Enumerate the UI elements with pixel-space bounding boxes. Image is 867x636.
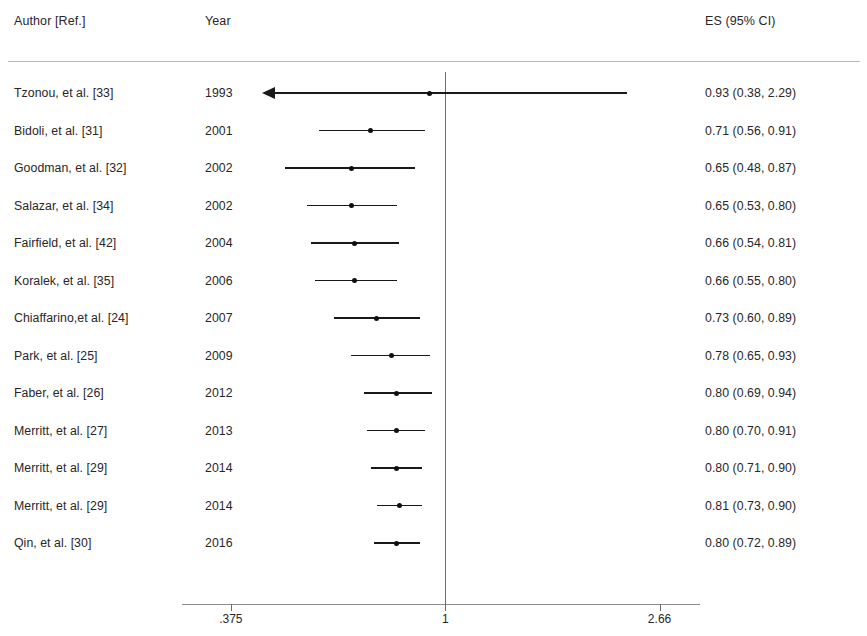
study-effect-size: 0.78 (0.65, 0.93) — [705, 345, 796, 367]
study-effect-size: 0.65 (0.48, 0.87) — [705, 157, 796, 179]
study-effect-size: 0.65 (0.53, 0.80) — [705, 195, 796, 217]
study-author: Tzonou, et al. [33] — [14, 82, 113, 104]
study-year: 2002 — [205, 195, 233, 217]
column-header-es: ES (95% CI) — [705, 14, 776, 28]
table-row: Bidoli, et al. [31]20010.71 (0.56, 0.91) — [0, 120, 867, 142]
table-row: Park, et al. [25]20090.78 (0.65, 0.93) — [0, 345, 867, 367]
study-author: Koralek, et al. [35] — [14, 270, 114, 292]
study-author: Chiaffarino,et al. [24] — [14, 307, 128, 329]
study-effect-size: 0.71 (0.56, 0.91) — [705, 120, 796, 142]
study-author: Merritt, et al. [27] — [14, 420, 107, 442]
study-effect-size: 0.81 (0.73, 0.90) — [705, 495, 796, 517]
table-row: Fairfield, et al. [42]20040.66 (0.54, 0.… — [0, 232, 867, 254]
table-row: Merritt, et al. [29]20140.80 (0.71, 0.90… — [0, 457, 867, 479]
table-row: Salazar, et al. [34]20020.65 (0.53, 0.80… — [0, 195, 867, 217]
axis-tick — [660, 604, 661, 611]
study-year: 2012 — [205, 382, 233, 404]
study-author: Park, et al. [25] — [14, 345, 98, 367]
table-row: Tzonou, et al. [33]19930.93 (0.38, 2.29) — [0, 82, 867, 104]
study-author: Fairfield, et al. [42] — [14, 232, 116, 254]
table-row: Goodman, et al. [32]20020.65 (0.48, 0.87… — [0, 157, 867, 179]
study-year: 2016 — [205, 532, 233, 554]
study-author: Merritt, et al. [29] — [14, 495, 107, 517]
axis-tick-label: 1 — [442, 612, 449, 626]
study-effect-size: 0.80 (0.71, 0.90) — [705, 457, 796, 479]
reference-line — [445, 72, 446, 606]
study-effect-size: 0.66 (0.55, 0.80) — [705, 270, 796, 292]
column-header-year: Year — [205, 14, 231, 28]
study-author: Salazar, et al. [34] — [14, 195, 113, 217]
study-year: 2013 — [205, 420, 233, 442]
study-effect-size: 0.93 (0.38, 2.29) — [705, 82, 796, 104]
table-row: Merritt, et al. [27]20130.80 (0.70, 0.91… — [0, 420, 867, 442]
study-author: Goodman, et al. [32] — [14, 157, 126, 179]
study-effect-size: 0.80 (0.72, 0.89) — [705, 532, 796, 554]
forest-plot-figure: Author [Ref.] Year ES (95% CI) Tzonou, e… — [0, 0, 867, 636]
study-effect-size: 0.66 (0.54, 0.81) — [705, 232, 796, 254]
study-author: Faber, et al. [26] — [14, 382, 104, 404]
study-year: 2014 — [205, 495, 233, 517]
column-header-author: Author [Ref.] — [14, 14, 85, 28]
study-year: 2007 — [205, 307, 233, 329]
table-row: Chiaffarino,et al. [24]20070.73 (0.60, 0… — [0, 307, 867, 329]
study-effect-size: 0.80 (0.69, 0.94) — [705, 382, 796, 404]
table-row: Merritt, et al. [29]20140.81 (0.73, 0.90… — [0, 495, 867, 517]
study-year: 2014 — [205, 457, 233, 479]
study-year: 1993 — [205, 82, 233, 104]
axis-tick — [231, 604, 232, 611]
table-row: Qin, et al. [30]20160.80 (0.72, 0.89) — [0, 532, 867, 554]
study-year: 2009 — [205, 345, 233, 367]
study-author: Qin, et al. [30] — [14, 532, 91, 554]
study-author: Merritt, et al. [29] — [14, 457, 107, 479]
header-divider — [8, 61, 860, 62]
study-year: 2006 — [205, 270, 233, 292]
table-row: Faber, et al. [26]20120.80 (0.69, 0.94) — [0, 382, 867, 404]
axis-tick-label: 2.66 — [648, 612, 671, 626]
study-year: 2004 — [205, 232, 233, 254]
axis-tick — [445, 604, 446, 611]
study-effect-size: 0.80 (0.70, 0.91) — [705, 420, 796, 442]
study-author: Bidoli, et al. [31] — [14, 120, 102, 142]
study-effect-size: 0.73 (0.60, 0.89) — [705, 307, 796, 329]
study-year: 2001 — [205, 120, 233, 142]
axis-tick-label: .375 — [219, 612, 242, 626]
study-year: 2002 — [205, 157, 233, 179]
table-row: Koralek, et al. [35]20060.66 (0.55, 0.80… — [0, 270, 867, 292]
x-axis-line — [182, 604, 700, 605]
